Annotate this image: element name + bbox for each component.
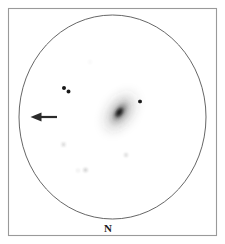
star-point — [62, 143, 65, 146]
north-direction-label: N — [104, 222, 112, 234]
sketch-canvas: N — [0, 0, 225, 244]
star-point-core — [139, 100, 142, 103]
star-point — [125, 154, 128, 157]
star-point — [84, 168, 87, 171]
star-point-core — [67, 90, 70, 93]
observation-sketch-figure: N — [0, 0, 225, 244]
star-point — [89, 61, 91, 63]
star-point-core — [63, 87, 66, 90]
star-point — [77, 169, 79, 171]
